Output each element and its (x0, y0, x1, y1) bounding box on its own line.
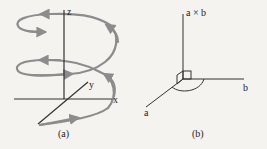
y-axis-label: y (89, 79, 94, 90)
right-angle-marker (177, 71, 191, 84)
panel-a: z x y (a) (14, 6, 118, 140)
z-axis-label: z (67, 6, 72, 17)
panel-b: a × b b a (b) (144, 7, 248, 140)
caption-a: (a) (58, 128, 69, 140)
helix-curve (17, 14, 118, 125)
a-label: a (144, 107, 149, 118)
b-label: b (243, 82, 248, 93)
x-axis-label: x (113, 94, 118, 105)
diagram-canvas: z x y (a) a × b b a (b) (0, 0, 267, 149)
figure: z x y (a) a × b b a (b) (0, 0, 267, 149)
cross-label: a × b (186, 7, 206, 18)
caption-b: (b) (192, 128, 204, 140)
